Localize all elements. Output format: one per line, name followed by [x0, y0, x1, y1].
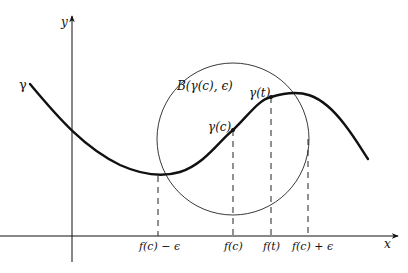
x-tick-labels: f(c) − ϵ f(c) f(t) f(c) + ϵ [138, 240, 333, 253]
axes: y x [0, 15, 398, 262]
tick-f-c-plus-eps: f(c) + ϵ [291, 240, 333, 253]
diagram-figure: y x B(γ(c), ϵ) γ γ(c) γ(t) f(c) − ϵ f(c)… [0, 0, 408, 273]
ball-label: B(γ(c), ϵ) [176, 79, 233, 93]
y-axis-label: y [60, 15, 68, 29]
tick-f-c: f(c) [223, 240, 243, 253]
curve-gamma [30, 84, 368, 175]
point-label-gamma-c: γ(c) [208, 120, 232, 134]
tick-f-c-minus-eps: f(c) − ϵ [138, 240, 180, 253]
point-label-gamma-t: γ(t) [249, 86, 271, 100]
curve-label: γ [19, 77, 27, 92]
tick-f-t: f(t) [262, 240, 280, 253]
x-axis-label: x [384, 237, 391, 251]
point-gamma-c [231, 128, 235, 132]
